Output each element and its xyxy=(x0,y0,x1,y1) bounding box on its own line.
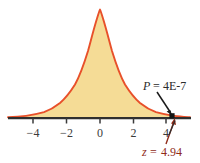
normal-distribution-figure: −4 −2 0 2 4 P = 4E-7 z = 4.94 xyxy=(0,0,200,163)
z-score-symbol: z xyxy=(141,145,147,159)
x-tick-label--4: −4 xyxy=(27,126,40,140)
p-value-symbol: P xyxy=(142,79,151,93)
z-score-equals: = xyxy=(150,145,157,159)
x-tick-label--2: −2 xyxy=(60,126,73,140)
p-value-equals: = xyxy=(153,79,160,93)
p-value-annotation: P = 4E-7 xyxy=(142,79,186,93)
x-tick-label-2: 2 xyxy=(131,126,137,140)
distribution-chart-svg: −4 −2 0 2 4 P = 4E-7 z = 4.94 xyxy=(0,0,200,163)
z-critical-marker xyxy=(169,113,174,118)
z-score-annotation: z = 4.94 xyxy=(141,145,182,159)
z-score-number: 4.94 xyxy=(161,145,182,159)
p-value-leader-line xyxy=(157,92,171,113)
x-tick-label-0: 0 xyxy=(97,126,103,140)
p-value-number: 4E-7 xyxy=(163,79,186,93)
